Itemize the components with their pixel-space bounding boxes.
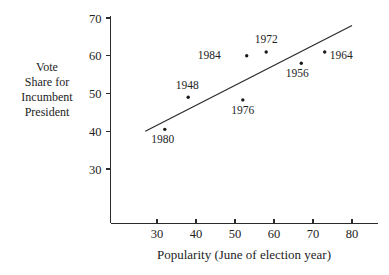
- plot-area: 3040506070 304050607080 1980194819761984…: [0, 0, 389, 275]
- data-point-label: 1964: [330, 49, 353, 61]
- x-axis-ticks: 304050607080: [151, 219, 359, 241]
- data-point-label: 1980: [151, 133, 174, 145]
- data-point-label: 1948: [176, 79, 199, 91]
- data-point: [245, 54, 248, 57]
- y-tick-label: 60: [89, 49, 102, 63]
- data-point: [187, 96, 190, 99]
- y-tick-label: 50: [89, 87, 102, 101]
- data-point: [241, 98, 244, 101]
- data-point: [163, 128, 166, 131]
- x-tick-label: 60: [268, 227, 281, 241]
- data-point-label: 1956: [286, 67, 309, 79]
- data-point: [265, 50, 268, 53]
- x-tick-label: 50: [229, 227, 242, 241]
- y-tick-label: 40: [89, 125, 102, 139]
- y-tick-label: 70: [89, 12, 102, 26]
- data-points-group: 1980194819761984197219561964: [151, 33, 353, 145]
- x-tick-label: 70: [307, 227, 320, 241]
- x-tick-label: 40: [190, 227, 203, 241]
- data-point: [300, 62, 303, 65]
- x-tick-label: 80: [346, 227, 359, 241]
- data-point-label: 1972: [255, 33, 278, 45]
- y-axis-ticks: 3040506070: [89, 12, 111, 177]
- data-point: [323, 50, 326, 53]
- axes: [111, 16, 379, 224]
- data-point-label: 1984: [198, 49, 221, 61]
- data-point-label: 1976: [231, 104, 254, 116]
- y-tick-label: 30: [89, 163, 102, 177]
- scatterplot-figure: Vote Share for Incumbent President 30405…: [0, 0, 389, 275]
- x-tick-label: 30: [151, 227, 164, 241]
- x-axis-title: Popularity (June of election year): [157, 247, 331, 262]
